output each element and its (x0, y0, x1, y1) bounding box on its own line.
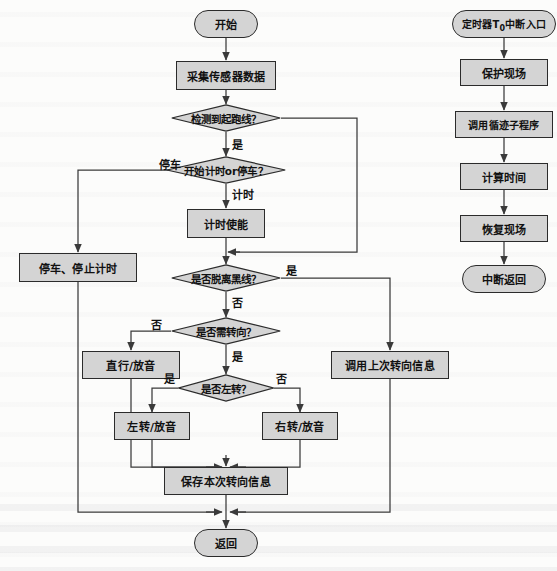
process-call-tracking-subroutine-label: 调用循迹子程序 (468, 117, 539, 132)
edge-label-turn-left-yes: 是 (164, 370, 175, 386)
decision-need-turn-label: 是否需转向？ (171, 317, 281, 345)
process-timing-enable: 计时使能 (187, 209, 265, 238)
process-restore-context-label: 恢复现场 (482, 221, 527, 237)
process-stop-and-stop-timing: 停车、停止计时 (19, 253, 137, 282)
decision-need-turn: 是否需转向？ (171, 317, 281, 345)
decision-turn-left-label: 是否左转？ (178, 374, 274, 402)
process-protect-context: 保护现场 (460, 59, 548, 86)
edge-label-need-turn-yes: 是 (232, 348, 243, 364)
edge-label-off-black-line-yes: 是 (286, 262, 297, 278)
process-sample-sensor-label: 采集传感器数据 (187, 68, 265, 84)
edge-label-detect-start-line-yes: 是 (232, 136, 243, 152)
process-sample-sensor: 采集传感器数据 (176, 61, 276, 90)
process-compute-time-label: 计算时间 (482, 169, 527, 185)
decision-detect-start-line: 检测到起跑线？ (171, 104, 281, 132)
process-timing-enable-label: 计时使能 (204, 216, 249, 232)
isr-entry-prefix: 定时器T (462, 19, 500, 30)
paper-bleedthrough-bottom (0, 498, 557, 571)
decision-start-timing-or-stop-label: 开始计时or停车？ (166, 156, 286, 184)
decision-off-black-line: 是否脱离黑线？ (171, 264, 281, 292)
process-restore-context: 恢复现场 (460, 215, 548, 242)
process-left-play: 左转/放音 (114, 412, 190, 440)
flowchart-page: 开始 采集传感器数据 检测到起跑线？ 开始计时or停车？ 计时使能 停车、停止计… (0, 0, 557, 571)
terminal-timer-isr-entry: 定时器T0中断入口 (452, 10, 556, 38)
process-right-play-label: 右转/放音 (275, 418, 324, 434)
terminal-start-label: 开始 (215, 16, 237, 32)
terminal-return-label: 返回 (215, 535, 237, 551)
process-straight-play-label: 直行/放音 (106, 357, 155, 373)
process-protect-context-label: 保护现场 (482, 65, 527, 81)
edge-label-turn-left-no: 否 (276, 370, 287, 386)
process-call-last-turn-info-label: 调用上次转向信息 (345, 357, 435, 373)
decision-detect-start-line-label: 检测到起跑线？ (171, 104, 281, 132)
edge-label-start-timing-timing: 计时 (232, 186, 254, 202)
process-right-play: 右转/放音 (262, 412, 338, 440)
process-call-tracking-subroutine: 调用循迹子程序 (455, 111, 553, 138)
process-call-last-turn-info: 调用上次转向信息 (331, 351, 449, 379)
edge-label-need-turn-no: 否 (151, 316, 162, 332)
decision-off-black-line-label: 是否脱离黑线？ (171, 264, 281, 292)
process-stop-and-stop-timing-label: 停车、停止计时 (39, 260, 117, 276)
process-left-play-label: 左转/放音 (127, 418, 176, 434)
decision-start-timing-or-stop: 开始计时or停车？ (166, 156, 286, 184)
terminal-start: 开始 (194, 10, 258, 38)
edge-label-off-black-line-no: 否 (232, 294, 243, 310)
process-compute-time: 计算时间 (460, 163, 548, 190)
process-save-turn-info: 保存本次转向信息 (164, 467, 288, 495)
terminal-interrupt-return: 中断返回 (462, 265, 546, 293)
terminal-timer-isr-entry-label: 定时器T0中断入口 (462, 16, 546, 33)
isr-entry-suffix: 中断入口 (505, 19, 546, 30)
terminal-interrupt-return-label: 中断返回 (482, 271, 527, 287)
decision-turn-left: 是否左转？ (178, 374, 274, 402)
terminal-return: 返回 (194, 529, 258, 557)
process-save-turn-info-label: 保存本次转向信息 (181, 473, 271, 489)
edge-label-start-timing-stop-car: 停车 (159, 156, 181, 172)
